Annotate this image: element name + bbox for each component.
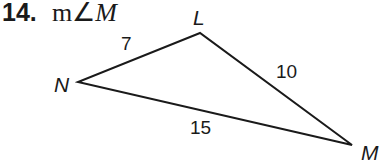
side-label-nm: 15 (190, 117, 211, 138)
side-label-lm: 10 (276, 61, 297, 82)
triangle-diagram: L N M 7 10 15 (0, 0, 380, 168)
vertex-label-m: M (361, 141, 379, 164)
vertex-label-n: N (54, 73, 70, 96)
triangle-lnm (78, 33, 352, 145)
side-label-nl: 7 (121, 33, 132, 54)
vertex-label-l: L (193, 6, 205, 29)
